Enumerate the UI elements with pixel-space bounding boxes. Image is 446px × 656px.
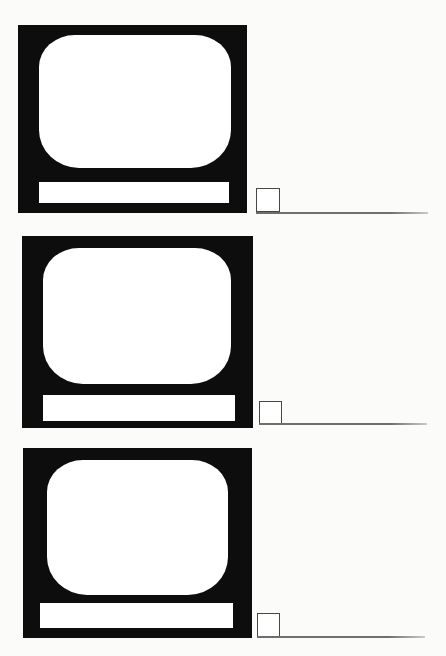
tv-front-panel [39,182,229,203]
answer-checkbox[interactable] [257,613,280,637]
tv-screen [43,248,231,384]
worksheet-page [0,0,446,656]
television-set-icon [18,25,247,213]
tv-front-panel [43,395,235,421]
answer-checkbox[interactable] [256,188,280,212]
answer-write-line[interactable] [259,423,427,425]
television-set-icon [22,236,253,428]
television-set-icon [23,448,252,638]
tv-screen [47,460,228,595]
answer-write-line[interactable] [257,636,425,638]
answer-checkbox[interactable] [259,401,282,424]
tv-front-panel [40,603,233,628]
answer-write-line[interactable] [256,212,428,214]
tv-screen [39,35,231,168]
